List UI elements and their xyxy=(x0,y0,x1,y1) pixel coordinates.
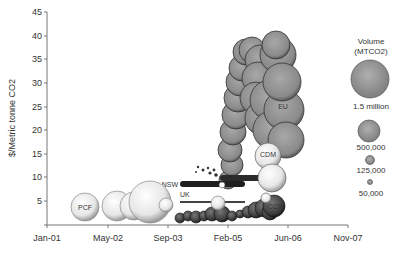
svg-text:25: 25 xyxy=(32,102,42,112)
svg-text:500,000: 500,000 xyxy=(357,143,386,152)
svg-text:Feb-05: Feb-05 xyxy=(214,233,243,243)
annotation-pcf: PCF xyxy=(78,204,92,211)
legend-bubble-500000 xyxy=(358,120,380,142)
annotation-eu: EU xyxy=(278,103,288,110)
svg-text:30: 30 xyxy=(32,78,42,88)
annotation-ccx: CCX xyxy=(268,203,283,210)
svg-text:Nov-07: Nov-07 xyxy=(333,233,362,243)
y-axis-tick-labels: 45 40 35 30 25 20 15 10 5 xyxy=(32,7,42,206)
svg-text:10: 10 xyxy=(32,172,42,182)
legend-bubble-125000 xyxy=(366,156,375,165)
svg-text:Volume: Volume xyxy=(358,37,385,46)
svg-text:May-02: May-02 xyxy=(93,233,123,243)
svg-text:Sep-03: Sep-03 xyxy=(153,233,182,243)
svg-text:45: 45 xyxy=(32,7,42,17)
y-axis-label: $/Metric tonne CO2 xyxy=(7,79,17,157)
legend-bubble-50000 xyxy=(368,180,373,185)
svg-text:35: 35 xyxy=(32,54,42,64)
svg-text:40: 40 xyxy=(32,31,42,41)
legend: Volume (MTCO2) 1.5 million 500,000 125,0… xyxy=(351,37,389,198)
annotation-uk: UK xyxy=(180,191,190,198)
svg-text:Jun-06: Jun-06 xyxy=(274,233,302,243)
svg-text:(MTCO2): (MTCO2) xyxy=(354,47,388,56)
legend-bubble-1-5-million xyxy=(351,60,389,98)
annotation-cdm: CDM xyxy=(260,151,276,158)
svg-text:50,000: 50,000 xyxy=(359,189,384,198)
svg-text:5: 5 xyxy=(37,196,42,206)
svg-text:15: 15 xyxy=(32,149,42,159)
svg-text:Jan-01: Jan-01 xyxy=(33,233,61,243)
svg-text:20: 20 xyxy=(32,125,42,135)
svg-text:125,000: 125,000 xyxy=(357,166,386,175)
bubble-chart: 45 40 35 30 25 20 15 10 5 $/Metric tonne… xyxy=(0,0,400,253)
x-axis-tick-labels: Jan-01 May-02 Sep-03 Feb-05 Jun-06 Nov-0… xyxy=(33,233,362,243)
svg-text:1.5 million: 1.5 million xyxy=(353,102,389,111)
axes xyxy=(47,12,348,225)
